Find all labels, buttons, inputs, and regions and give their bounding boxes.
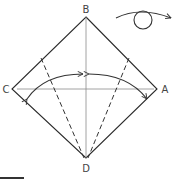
label-right: A — [162, 84, 169, 95]
label-top: B — [83, 4, 90, 15]
fold-arrow-left-icon — [27, 74, 83, 99]
origami-diagram: B C A D — [0, 0, 173, 179]
footer-rule — [0, 177, 24, 179]
valley-fold-left — [41, 58, 84, 158]
valley-fold-right — [88, 58, 129, 158]
turn-over-icon — [116, 11, 171, 29]
fold-arrow-right-icon — [89, 74, 147, 99]
label-left: C — [3, 84, 10, 95]
label-bottom: D — [82, 163, 90, 174]
